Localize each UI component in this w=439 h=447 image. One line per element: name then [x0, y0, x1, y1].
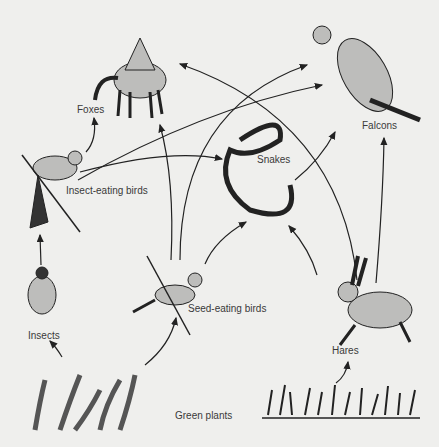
food-web-diagram: Foxes Falcons Snakes Insect-eating birds…: [0, 0, 439, 447]
label-foxes: Foxes: [77, 104, 104, 115]
label-falcons: Falcons: [362, 120, 397, 131]
label-insect-eating-birds: Insect-eating birds: [66, 185, 148, 196]
label-hares: Hares: [332, 345, 359, 356]
label-seed-eating-birds: Seed-eating birds: [188, 303, 266, 314]
food-web-arrows: [0, 0, 439, 447]
label-insects: Insects: [28, 330, 60, 341]
label-green-plants: Green plants: [175, 410, 232, 421]
label-snakes: Snakes: [257, 154, 290, 165]
